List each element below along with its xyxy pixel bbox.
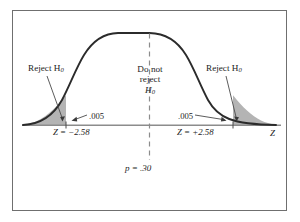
label-axis-z: Z	[270, 128, 275, 138]
label-reject-h0-right-subscript: 0	[238, 66, 241, 73]
label-do-not-reject-subscript: 0	[152, 88, 155, 95]
label-reject-h0-left: Reject H0	[28, 63, 64, 74]
label-do-not-reject-line3: H0	[123, 85, 177, 96]
shaded-region-right-tail	[233, 95, 276, 125]
label-tail-area-right: .005	[178, 112, 193, 122]
label-critical-value-right: Z = +2.58	[177, 128, 214, 138]
label-reject-h0-right: Reject H0	[206, 63, 242, 74]
label-do-not-reject-h0: Do not reject H0	[123, 64, 177, 95]
label-reject-h0-right-text: Reject H	[206, 63, 238, 73]
label-reject-h0-left-text: Reject H	[28, 63, 60, 73]
label-do-not-reject-line2: reject	[123, 74, 177, 84]
label-critical-value-left: Z = −2.58	[53, 128, 90, 138]
label-tail-area-left: .005	[89, 112, 104, 122]
label-reject-h0-left-subscript: 0	[60, 66, 63, 73]
leader-line-alpha-right	[195, 115, 223, 120]
leader-arrow-alpha-left	[72, 117, 78, 122]
label-do-not-reject-h-symbol: H	[145, 85, 152, 95]
leader-line-reject-right	[226, 76, 237, 119]
figure-root: Reject H0 Reject H0 Do not reject H0 .00…	[0, 0, 300, 222]
normal-curve-plot	[0, 0, 300, 222]
label-do-not-reject-line1: Do not	[123, 64, 177, 74]
label-p-value: p = .30	[125, 163, 151, 173]
